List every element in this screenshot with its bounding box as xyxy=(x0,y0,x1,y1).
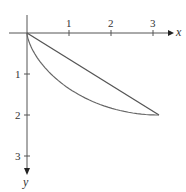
x-axis-arrow-icon xyxy=(168,30,174,36)
y-ticks: 1 2 3 xyxy=(15,68,30,162)
y-axis-label: y xyxy=(22,175,29,189)
y-tick-label: 2 xyxy=(15,109,21,121)
y-tick-label: 1 xyxy=(15,68,21,80)
x-tick-label: 1 xyxy=(66,17,72,29)
y-axis-arrow-icon xyxy=(24,168,30,175)
x-axis-label: x xyxy=(175,25,182,39)
x-tick-label: 3 xyxy=(150,17,156,29)
straight-line-path xyxy=(27,33,159,115)
chart: x y 1 2 3 1 2 3 xyxy=(0,0,186,192)
y-tick-label: 3 xyxy=(15,150,21,162)
x-tick-label: 2 xyxy=(108,17,114,29)
